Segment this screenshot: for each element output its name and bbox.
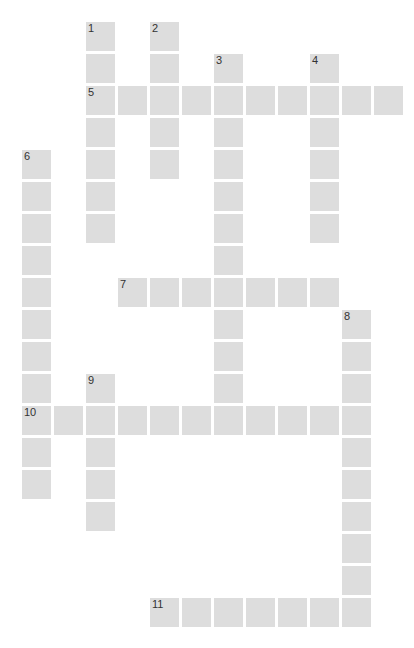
- crossword-cell[interactable]: [342, 598, 371, 627]
- crossword-cell[interactable]: [310, 598, 339, 627]
- crossword-cell[interactable]: [310, 214, 339, 243]
- crossword-cell[interactable]: [118, 86, 147, 115]
- crossword-cell[interactable]: 4: [310, 54, 339, 83]
- crossword-cell[interactable]: [214, 374, 243, 403]
- crossword-cell[interactable]: [310, 86, 339, 115]
- crossword-cell[interactable]: [342, 374, 371, 403]
- crossword-cell[interactable]: [342, 438, 371, 467]
- crossword-cell[interactable]: [214, 406, 243, 435]
- crossword-cell[interactable]: [214, 118, 243, 147]
- crossword-cell[interactable]: [150, 278, 179, 307]
- crossword-cell[interactable]: [246, 278, 275, 307]
- clue-number: 1: [88, 23, 94, 34]
- crossword-cell[interactable]: [310, 182, 339, 211]
- clue-number: 4: [312, 55, 318, 66]
- crossword-cell[interactable]: [150, 118, 179, 147]
- crossword-cell[interactable]: [214, 182, 243, 211]
- crossword-cell[interactable]: [22, 470, 51, 499]
- crossword-cell[interactable]: [214, 150, 243, 179]
- crossword-cell[interactable]: [214, 214, 243, 243]
- crossword-cell[interactable]: 11: [150, 598, 179, 627]
- crossword-cell[interactable]: 5: [86, 86, 115, 115]
- crossword-cell[interactable]: [118, 406, 147, 435]
- clue-number: 11: [152, 599, 163, 610]
- crossword-cell[interactable]: 3: [214, 54, 243, 83]
- crossword-cell[interactable]: [214, 86, 243, 115]
- crossword-cell[interactable]: [310, 118, 339, 147]
- crossword-cell[interactable]: [310, 150, 339, 179]
- crossword-cell[interactable]: [342, 406, 371, 435]
- crossword-cell[interactable]: [310, 406, 339, 435]
- crossword-cell[interactable]: [86, 54, 115, 83]
- crossword-cell[interactable]: [246, 86, 275, 115]
- crossword-cell[interactable]: [182, 278, 211, 307]
- clue-number: 7: [120, 279, 126, 290]
- crossword-cell[interactable]: [86, 214, 115, 243]
- crossword-cell[interactable]: [182, 598, 211, 627]
- crossword-cell[interactable]: [86, 470, 115, 499]
- crossword-cell[interactable]: [22, 438, 51, 467]
- crossword-cell[interactable]: 9: [86, 374, 115, 403]
- crossword-cell[interactable]: [342, 470, 371, 499]
- crossword-grid: 1523461078911: [0, 0, 414, 648]
- crossword-cell[interactable]: [86, 118, 115, 147]
- crossword-cell[interactable]: [22, 182, 51, 211]
- crossword-cell[interactable]: 8: [342, 310, 371, 339]
- crossword-cell[interactable]: 2: [150, 22, 179, 51]
- crossword-cell[interactable]: [22, 214, 51, 243]
- crossword-cell[interactable]: [182, 86, 211, 115]
- crossword-cell[interactable]: [150, 54, 179, 83]
- crossword-cell[interactable]: [86, 406, 115, 435]
- crossword-cell[interactable]: [54, 406, 83, 435]
- crossword-cell[interactable]: [310, 278, 339, 307]
- crossword-cell[interactable]: [342, 566, 371, 595]
- crossword-cell[interactable]: 7: [118, 278, 147, 307]
- crossword-cell[interactable]: [86, 150, 115, 179]
- clue-number: 10: [24, 407, 36, 418]
- crossword-cell[interactable]: [22, 374, 51, 403]
- crossword-cell[interactable]: [342, 534, 371, 563]
- crossword-cell[interactable]: 1: [86, 22, 115, 51]
- crossword-cell[interactable]: [22, 278, 51, 307]
- crossword-cell[interactable]: [278, 598, 307, 627]
- crossword-cell[interactable]: [22, 342, 51, 371]
- clue-number: 8: [344, 311, 350, 322]
- crossword-cell[interactable]: [86, 438, 115, 467]
- clue-number: 6: [24, 151, 30, 162]
- crossword-cell[interactable]: [86, 182, 115, 211]
- crossword-cell[interactable]: [278, 278, 307, 307]
- crossword-cell[interactable]: 10: [22, 406, 51, 435]
- clue-number: 3: [216, 55, 222, 66]
- crossword-cell[interactable]: [182, 406, 211, 435]
- crossword-cell[interactable]: [214, 342, 243, 371]
- crossword-cell[interactable]: [22, 310, 51, 339]
- crossword-cell[interactable]: [150, 150, 179, 179]
- crossword-cell[interactable]: [214, 598, 243, 627]
- clue-number: 5: [88, 87, 94, 98]
- crossword-cell[interactable]: [150, 406, 179, 435]
- crossword-cell[interactable]: [342, 502, 371, 531]
- crossword-cell[interactable]: [150, 86, 179, 115]
- crossword-cell[interactable]: [342, 86, 371, 115]
- crossword-cell[interactable]: [214, 278, 243, 307]
- crossword-cell[interactable]: [214, 246, 243, 275]
- crossword-cell[interactable]: [86, 502, 115, 531]
- clue-number: 2: [152, 23, 158, 34]
- crossword-cell[interactable]: [214, 310, 243, 339]
- crossword-cell[interactable]: [374, 86, 403, 115]
- crossword-cell[interactable]: 6: [22, 150, 51, 179]
- crossword-cell[interactable]: [342, 342, 371, 371]
- crossword-cell[interactable]: [22, 246, 51, 275]
- crossword-cell[interactable]: [246, 406, 275, 435]
- crossword-cell[interactable]: [278, 86, 307, 115]
- clue-number: 9: [88, 375, 94, 386]
- crossword-cell[interactable]: [246, 598, 275, 627]
- crossword-cell[interactable]: [278, 406, 307, 435]
